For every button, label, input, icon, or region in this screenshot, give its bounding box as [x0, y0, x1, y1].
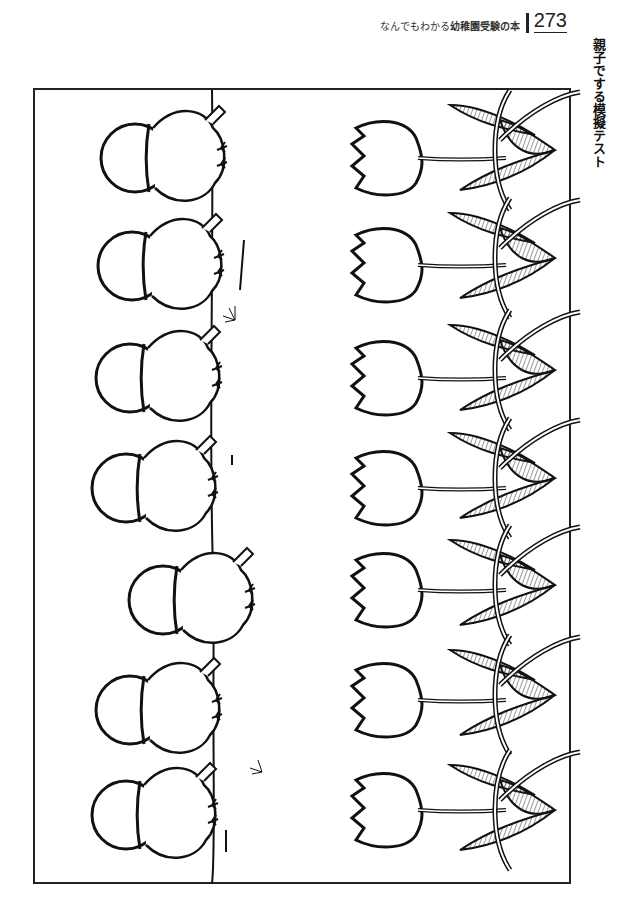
leaf-column — [450, 90, 580, 870]
worksheet-illustration — [0, 0, 617, 917]
chick-column — [92, 106, 255, 858]
